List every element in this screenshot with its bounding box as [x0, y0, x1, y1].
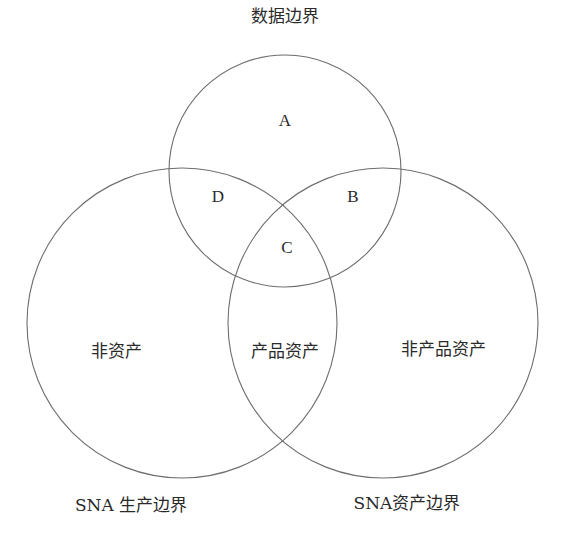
data-boundary-label: 数据边界: [251, 6, 319, 26]
sna-production-boundary-label: SNA 生产边界: [75, 495, 187, 515]
sna-asset-boundary-label: SNA资产边界: [354, 493, 461, 513]
region-b-label: B: [347, 187, 358, 206]
product-asset-label: 产品资产: [251, 341, 319, 361]
venn-diagram: 数据边界 A D B C 非资产 产品资产 非产品资产 SNA 生产边界 SNA…: [0, 0, 561, 545]
sna-production-boundary-circle: [27, 168, 337, 478]
non-asset-label: 非资产: [91, 341, 142, 361]
region-c-label: C: [281, 238, 292, 257]
region-a-label: A: [279, 111, 292, 130]
non-product-asset-label: 非产品资产: [401, 339, 486, 359]
region-d-label: D: [212, 187, 224, 206]
sna-asset-boundary-circle: [228, 168, 538, 478]
